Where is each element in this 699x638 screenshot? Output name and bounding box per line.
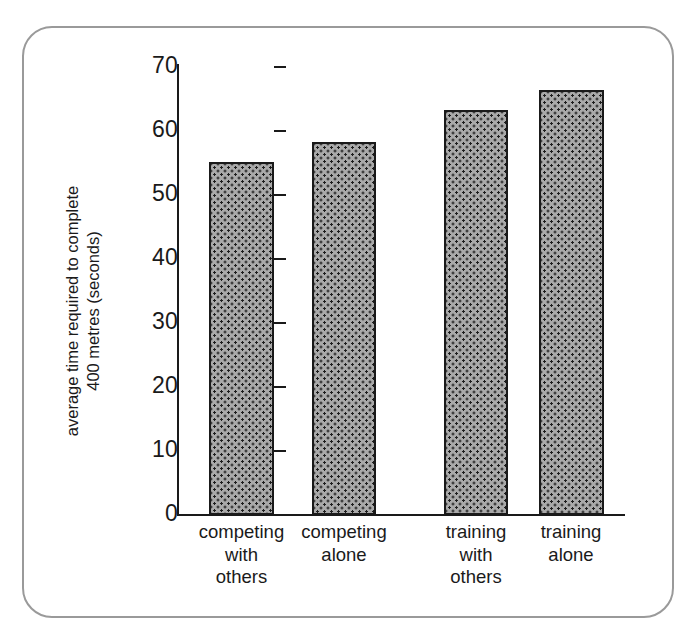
figure-canvas: 0 10 20 30 40 50 60 70: [0, 0, 699, 638]
y-tick-label-40: 40: [134, 246, 178, 269]
y-tick-10: 10: [108, 450, 178, 452]
y-tick-mark-60: [274, 130, 286, 132]
y-tick-50: 50: [108, 194, 178, 196]
y-tick-0: 0: [108, 514, 178, 516]
bar-training-with-others[interactable]: [444, 110, 508, 515]
y-tick-mark-70: [274, 66, 286, 68]
y-tick-label-10: 10: [134, 438, 178, 461]
y-tick-mark-10: [274, 450, 286, 452]
y-tick-mark-30: [274, 322, 286, 324]
y-tick-label-50: 50: [134, 182, 178, 205]
bar-chart-plot-area: 0 10 20 30 40 50 60 70: [0, 0, 699, 638]
y-axis-title-line-1: average time required to complete: [62, 146, 83, 476]
bar-competing-with-others[interactable]: [209, 162, 274, 515]
y-axis-title: average time required to complete 400 me…: [62, 146, 104, 476]
bar-competing-alone[interactable]: [312, 142, 376, 515]
y-tick-mark-0: [274, 514, 286, 516]
y-tick-mark-50: [274, 194, 286, 196]
y-tick-20: 20: [108, 386, 178, 388]
y-tick-label-20: 20: [134, 374, 178, 397]
x-tick-label-training-alone: training alone: [513, 521, 629, 566]
y-tick-mark-20: [274, 386, 286, 388]
y-tick-mark-40: [274, 258, 286, 260]
y-axis-title-line-2: 400 metres (seconds): [83, 146, 104, 476]
y-tick-label-60: 60: [134, 118, 178, 141]
y-tick-70: 70: [108, 66, 178, 68]
y-tick-60: 60: [108, 130, 178, 132]
bar-training-alone[interactable]: [539, 90, 604, 515]
x-tick-label-competing-alone: competing alone: [285, 521, 403, 566]
y-tick-30: 30: [108, 322, 178, 324]
y-tick-label-70: 70: [134, 54, 178, 77]
y-tick-label-30: 30: [134, 310, 178, 333]
y-tick-40: 40: [108, 258, 178, 260]
